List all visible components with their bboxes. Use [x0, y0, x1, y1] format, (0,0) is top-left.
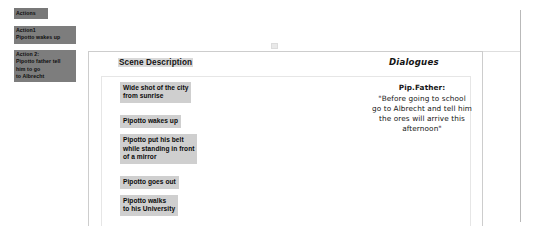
- scene-description-column: Wide shot of the city from sunrise Pipot…: [120, 82, 218, 222]
- scene-card-row: Pipotto put his belt while standing in f…: [120, 134, 218, 170]
- scene-card-row: Pipotto wakes up: [120, 109, 218, 134]
- scene-card-3-line-2: while standing in front: [123, 145, 194, 153]
- scene-description-header: Scene Description: [118, 58, 193, 67]
- dialogue-line-2: go to Albrecht and tell him: [352, 104, 492, 114]
- scene-card-3-line-3: of a mirror: [123, 153, 194, 161]
- scene-card-row: Pipotto goes out: [120, 170, 218, 195]
- scene-card-5-line-2: to his University: [123, 205, 175, 213]
- scene-card-5-line-1: Pipotto walks: [123, 197, 175, 205]
- scene-card-row: Pipotto walks to his University: [120, 195, 218, 222]
- action-2-line-1: Action 2:: [16, 51, 74, 58]
- action-2-line-3: him to go: [16, 66, 74, 73]
- dialogue-line-3: the ores will arrive this: [352, 114, 492, 124]
- scene-card-5[interactable]: Pipotto walks to his University: [120, 195, 178, 216]
- action-2-line-4: to Albrecht: [16, 73, 74, 80]
- action-note-1[interactable]: Action1 Pipotto wakes up: [14, 26, 76, 44]
- scene-card-1[interactable]: Wide shot of the city from sunrise: [120, 82, 191, 103]
- action-1-line-1: Action1: [16, 27, 74, 34]
- scene-card-1-line-1: Wide shot of the city: [123, 84, 188, 92]
- dialogue-speaker: Pip.Father:: [352, 83, 492, 93]
- dialogue-block[interactable]: Pip.Father: "Before going to school go t…: [352, 83, 492, 135]
- right-vertical-guide: [520, 10, 521, 222]
- dialogues-header: Dialogues: [389, 57, 439, 67]
- dialogue-line-4: afternoon": [352, 124, 492, 134]
- dialogue-line-1: "Before going to school: [352, 94, 492, 104]
- actions-column: Actions Action1 Pipotto wakes up Action …: [14, 8, 76, 88]
- actions-title-note[interactable]: Actions: [14, 8, 48, 19]
- scene-card-3[interactable]: Pipotto put his belt while standing in f…: [120, 134, 197, 164]
- scene-card-3-line-1: Pipotto put his belt: [123, 136, 194, 144]
- storyboard-canvas: Actions Action1 Pipotto wakes up Action …: [0, 0, 543, 226]
- scene-card-1-line-2: from sunrise: [123, 92, 188, 100]
- scene-card-4[interactable]: Pipotto goes out: [120, 176, 179, 189]
- selection-handle-icon[interactable]: [271, 43, 278, 49]
- actions-title-label: Actions: [16, 10, 46, 17]
- scene-card-2-line-1: Pipotto wakes up: [123, 117, 178, 125]
- scene-card-row: Wide shot of the city from sunrise: [120, 82, 218, 109]
- scene-card-2[interactable]: Pipotto wakes up: [120, 115, 181, 128]
- action-1-line-2: Pipotto wakes up: [16, 34, 74, 41]
- action-note-2[interactable]: Action 2: Pipotto father tell him to go …: [14, 50, 76, 82]
- scene-card-4-line-1: Pipotto goes out: [123, 178, 176, 186]
- action-2-line-2: Pipotto father tell: [16, 58, 74, 65]
